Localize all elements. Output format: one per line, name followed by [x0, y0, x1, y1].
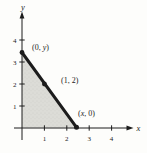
y-axis-arrow-icon	[20, 12, 25, 19]
label-x-intercept: (x, 0)	[78, 109, 95, 118]
x-axis-arrow-icon	[127, 126, 134, 131]
x-tick-label-2: 2	[65, 135, 69, 143]
y-tick-label-2: 2	[13, 81, 17, 89]
y-axis-label: y	[20, 2, 25, 12]
point-y-intercept	[20, 50, 25, 55]
x-tick-label-1: 1	[43, 135, 47, 143]
label-y-intercept: (0, y)	[32, 43, 49, 52]
label-known-point: (1, 2)	[61, 76, 79, 85]
x-axis-label: x	[136, 123, 141, 133]
figure-container: 1 2 3 4 1 2 3 4 (0, y) (1, 2) (x, 0) y x	[0, 0, 147, 153]
y-tick-label-4: 4	[13, 37, 17, 45]
y-tick-label-3: 3	[13, 59, 17, 67]
x-tick-label-3: 3	[87, 135, 91, 143]
x-tick-label-4: 4	[110, 135, 114, 143]
point-x-intercept	[74, 125, 79, 130]
point-1-2	[42, 82, 47, 87]
coordinate-plane-figure: 1 2 3 4 1 2 3 4 (0, y) (1, 2) (x, 0) y x	[0, 0, 147, 153]
y-tick-label-1: 1	[13, 103, 17, 111]
